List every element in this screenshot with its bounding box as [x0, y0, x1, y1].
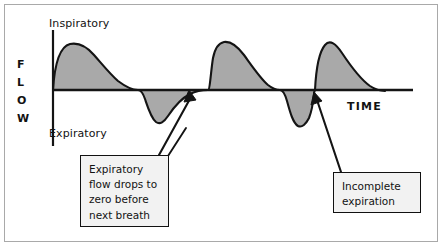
y-axis-label-letter-f: F [17, 56, 25, 74]
annotation-arrow-incomplete-expiration [311, 92, 341, 172]
expiratory-direction-label: Expiratory [49, 128, 107, 139]
x-axis-label-time: TIME [347, 101, 382, 112]
inspiratory-direction-label: Inspiratory [49, 18, 109, 29]
waveform-shaded-area [53, 42, 385, 127]
callout-expiratory-flow: Expiratory flow drops to zero before nex… [80, 155, 169, 227]
y-axis-label-letter-l: L [17, 74, 24, 92]
callout-line: Incomplete [342, 179, 412, 194]
y-axis-label-letter-o: O [17, 92, 26, 110]
callout-line: zero before [89, 192, 160, 207]
y-axis-label-flow: F L O W [17, 56, 29, 129]
flow-time-waveform-figure: Inspiratory Expiratory TIME F L O W Expi… [0, 0, 444, 248]
callout-line: next breath [89, 208, 160, 223]
callout-line: Expiratory [89, 162, 160, 177]
y-axis-label-letter-w: W [17, 110, 29, 128]
callout-incomplete-expiration: Incomplete expiration [333, 172, 421, 213]
callout-line: flow drops to [89, 177, 160, 192]
callout-line: expiration [342, 194, 412, 209]
